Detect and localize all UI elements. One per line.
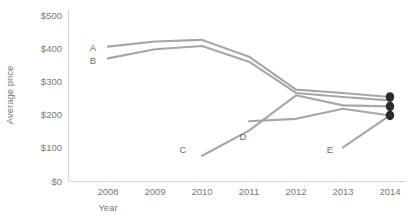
y-tick-label-200: $200 xyxy=(41,109,62,120)
x-tick-label-2012: 2012 xyxy=(285,186,306,197)
chart-canvas: $0 $100 $200 $300 $400 $500 2008 2009 20… xyxy=(0,0,411,222)
x-axis-title: Year xyxy=(98,202,117,213)
endpoint-dot-c xyxy=(386,102,394,112)
series-label-d: D xyxy=(240,131,247,142)
endpoint-dots-group xyxy=(386,92,394,120)
series-label-b: B xyxy=(90,55,96,66)
x-tick-label-2009: 2009 xyxy=(144,186,165,197)
y-tick-label-300: $300 xyxy=(41,76,62,87)
series-label-c: C xyxy=(180,144,187,155)
x-tick-label-2013: 2013 xyxy=(332,186,353,197)
y-tick-label-400: $400 xyxy=(41,43,62,54)
x-tick-label-2011: 2011 xyxy=(239,186,259,197)
y-axis-title: Average price xyxy=(4,66,15,124)
endpoint-dot-d xyxy=(386,111,394,121)
y-tick-label-500: $500 xyxy=(41,10,62,21)
x-tick-label-2014: 2014 xyxy=(379,186,400,197)
endpoint-dot-a xyxy=(386,92,394,102)
x-tick-label-2010: 2010 xyxy=(191,186,212,197)
series-line-c xyxy=(202,95,390,155)
series-line-a xyxy=(108,40,390,97)
y-tick-label-0: $0 xyxy=(51,176,62,187)
y-tick-label-100: $100 xyxy=(41,142,62,153)
x-tick-label-2008: 2008 xyxy=(97,186,118,197)
series-labels-group: ABCDE xyxy=(90,42,333,155)
line-chart: $0 $100 $200 $300 $400 $500 2008 2009 20… xyxy=(0,0,411,222)
series-label-e: E xyxy=(327,144,333,155)
series-label-a: A xyxy=(90,42,97,53)
series-lines-group xyxy=(108,40,390,156)
series-line-e xyxy=(343,115,390,147)
series-line-b xyxy=(108,46,390,100)
